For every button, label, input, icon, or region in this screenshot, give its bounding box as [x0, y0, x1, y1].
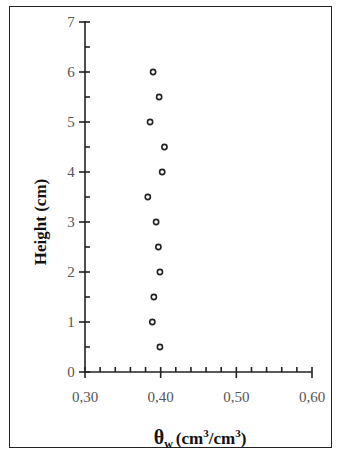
y-tick-label: 5 [67, 114, 75, 130]
x-axis-title: θw(cm3/cm3) [154, 426, 247, 451]
y-tick-label: 2 [67, 264, 75, 280]
data-point [151, 69, 156, 74]
x-tick-label: 0,50 [223, 389, 249, 405]
y-tick-label: 3 [67, 214, 75, 230]
x-tick-label: 0,60 [299, 389, 325, 405]
x-axis-unit-open: (cm [176, 429, 203, 448]
y-tick-label: 7 [67, 14, 75, 30]
data-point [147, 119, 152, 124]
x-tick-label: 0,30 [72, 389, 98, 405]
x-tick-label: 0,40 [148, 389, 174, 405]
y-axis-title: Height (cm) [31, 179, 50, 265]
data-point [150, 319, 155, 324]
x-axis-unit-slash: /cm [208, 429, 235, 448]
data-point [157, 94, 162, 99]
x-axis-symbol: θ [154, 426, 164, 448]
scatter-chart: 012345670,300,400,500,60 Height (cm) θw(… [0, 0, 344, 457]
y-tick-label: 0 [67, 364, 75, 380]
y-tick-label: 4 [67, 164, 75, 180]
data-points [145, 69, 167, 349]
data-point [156, 244, 161, 249]
data-point [162, 144, 167, 149]
x-axis-sub: w [164, 437, 173, 451]
data-point [151, 294, 156, 299]
y-tick-label: 6 [67, 64, 75, 80]
data-point [157, 344, 162, 349]
data-point [145, 194, 150, 199]
x-axis-unit-close: ) [241, 429, 247, 448]
data-point [160, 169, 165, 174]
axes: 012345670,300,400,500,60 [67, 14, 325, 405]
y-tick-label: 1 [67, 314, 75, 330]
data-point [157, 269, 162, 274]
data-point [154, 219, 159, 224]
